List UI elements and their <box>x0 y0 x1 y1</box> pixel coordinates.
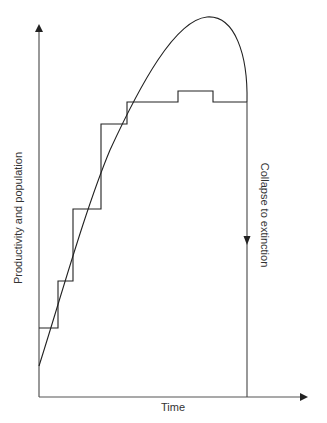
collapse-arrow-icon <box>244 236 251 245</box>
population-curve <box>39 17 247 366</box>
collapse-annotation: Collapse to extinction <box>259 163 271 268</box>
productivity-steps <box>39 91 247 328</box>
y-axis-label: Productivity and population <box>12 152 24 284</box>
diagram-canvas: Productivity and population Time Collaps… <box>0 0 327 423</box>
diagram-svg <box>0 0 327 423</box>
x-axis-label: Time <box>161 401 185 413</box>
